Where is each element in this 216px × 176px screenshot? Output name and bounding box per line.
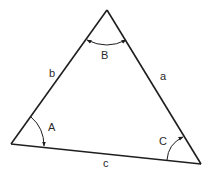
triangle-diagram: a b c A B C bbox=[0, 0, 216, 176]
side-a-line bbox=[107, 10, 201, 164]
angle-b-arc bbox=[87, 40, 126, 45]
side-b-line bbox=[11, 10, 107, 144]
side-b-label: b bbox=[49, 67, 55, 79]
triangle-canvas: a b c A B C bbox=[0, 0, 216, 176]
angle-c-label: C bbox=[159, 135, 167, 147]
angle-a-label: A bbox=[48, 121, 56, 133]
side-a-label: a bbox=[160, 70, 167, 82]
angle-b-label: B bbox=[101, 49, 108, 61]
side-c-label: c bbox=[103, 157, 109, 169]
angle-c-arc bbox=[167, 137, 183, 160]
angle-a-arc bbox=[31, 117, 44, 146]
